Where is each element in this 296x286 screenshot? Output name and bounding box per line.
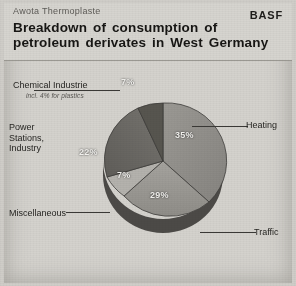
slice-value-traffic: 29%	[150, 190, 169, 200]
header-band: Awota Thermoplaste BASF Breakdown of con…	[4, 3, 292, 61]
leader-line-traffic	[200, 232, 256, 233]
page-sheet: Awota Thermoplaste BASF Breakdown of con…	[4, 3, 292, 283]
callout-power-line-1: Power	[9, 122, 44, 133]
slice-value-heating: 35%	[175, 130, 194, 140]
callout-power-stations: Power Stations, Industry	[9, 122, 44, 154]
product-kicker: Awota Thermoplaste	[13, 6, 101, 16]
callout-miscellaneous: Miscellaneous	[9, 208, 66, 219]
page-title: Breakdown of consumption of petroleum de…	[13, 20, 285, 50]
leader-line-miscellaneous	[66, 212, 110, 213]
callout-chemical-industrie-sublabel: incl. 4% for plastics	[26, 91, 84, 102]
slice-value-chemical-industrie: 7%	[121, 77, 134, 87]
pie-graphic: 35% 29% 22% 7% 7%	[99, 85, 227, 237]
callout-heating: Heating	[246, 120, 277, 131]
leader-line-heating	[192, 126, 248, 127]
callout-traffic: Traffic	[254, 227, 279, 238]
slice-value-power-stations: 22%	[79, 147, 98, 157]
pie-svg	[99, 85, 227, 237]
callout-chemical-industrie: Chemical Industrie	[13, 80, 88, 91]
pie-chart: 35% 29% 22% 7% 7% Chemical Industrie inc…	[4, 60, 292, 283]
callout-power-line-3: Industry	[9, 143, 44, 154]
callout-power-line-2: Stations,	[9, 133, 44, 144]
scanned-page: Awota Thermoplaste BASF Breakdown of con…	[0, 0, 296, 286]
slice-value-miscellaneous: 7%	[117, 170, 130, 180]
